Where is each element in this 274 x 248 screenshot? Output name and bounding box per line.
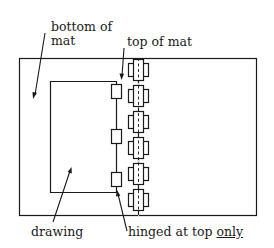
arrow-hinged [118, 194, 127, 231]
label-hinged-emphasis: only [216, 224, 243, 239]
hinge-tab [112, 173, 122, 187]
arrow-top-of-mat [122, 48, 124, 76]
drawing-outline [51, 82, 118, 193]
label-hinged-prefix: hinged at top [128, 224, 216, 239]
label-hinged-at-top-only: hinged at top only [128, 225, 243, 239]
label-bottom-of-mat-line1: bottom of [51, 20, 112, 34]
label-drawing: drawing [31, 225, 83, 239]
hinge-tab [112, 85, 122, 99]
arrow-drawing [53, 171, 70, 222]
label-bottom-of-mat-line2: mat [51, 34, 112, 48]
label-top-of-mat: top of mat [127, 35, 192, 49]
hinge-tab [112, 130, 122, 144]
arrow-bottom-of-mat [35, 33, 45, 95]
label-bottom-of-mat: bottom of mat [51, 20, 112, 48]
